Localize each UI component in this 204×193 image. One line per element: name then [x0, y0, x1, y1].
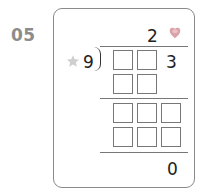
quotient-digit: 2	[147, 26, 158, 46]
heart-icon	[167, 24, 183, 44]
answer-box[interactable]	[137, 50, 157, 70]
division-bracket	[94, 47, 101, 71]
answer-box[interactable]	[113, 50, 133, 70]
answer-box[interactable]	[137, 74, 157, 94]
answer-box[interactable]	[113, 127, 133, 147]
divisor: 9	[83, 52, 94, 72]
answer-box[interactable]	[113, 74, 133, 94]
dividend-digit: 3	[166, 52, 177, 72]
subtraction-line	[100, 98, 188, 99]
answer-box[interactable]	[161, 103, 181, 123]
star-icon	[66, 54, 80, 72]
answer-box[interactable]	[113, 103, 133, 123]
answer-box[interactable]	[161, 127, 181, 147]
division-bar	[100, 46, 188, 47]
answer-box[interactable]	[137, 103, 157, 123]
subtraction-line	[100, 152, 188, 153]
answer-box[interactable]	[137, 127, 157, 147]
division-card: 2 9 3 0	[53, 8, 195, 188]
problem-number: 05	[11, 25, 36, 45]
remainder: 0	[167, 159, 178, 179]
